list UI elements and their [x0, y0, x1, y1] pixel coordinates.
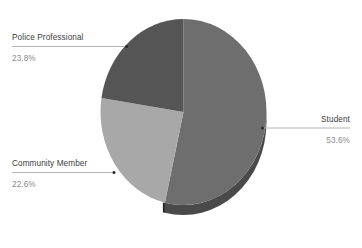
callout-student[interactable]: Student 53.6%	[261, 115, 351, 145]
leader-dot-student	[261, 127, 264, 130]
callout-value-police-professional: 23.8%	[12, 54, 36, 63]
slice-top-community-member	[101, 19, 183, 112]
pie-chart-figure: Police Professional 23.8% Community Memb…	[0, 0, 362, 248]
callout-label-student: Student	[321, 115, 351, 124]
callout-label-police-professional: Police Professional	[12, 33, 84, 42]
callout-police-professional[interactable]: Police Professional 23.8%	[12, 33, 128, 63]
callout-value-community-member: 22.6%	[12, 180, 36, 189]
leader-dot-police-professional	[125, 45, 128, 48]
callout-label-community-member: Community Member	[12, 159, 87, 168]
leader-dot-community-member	[113, 171, 116, 174]
callout-community-member[interactable]: Community Member 22.6%	[12, 159, 116, 189]
slice-side-community-radius-face	[163, 202, 165, 212]
callout-value-student: 53.6%	[326, 136, 350, 145]
pie-chart-svg: Police Professional 23.8% Community Memb…	[0, 0, 362, 248]
